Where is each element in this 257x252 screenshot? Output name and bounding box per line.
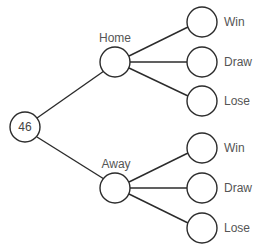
edge-away-lose <box>129 194 188 223</box>
root-node-label: 46 <box>18 120 31 134</box>
home-node <box>100 47 130 77</box>
edge-root-away <box>37 137 104 179</box>
away-win-label: Win <box>224 141 245 155</box>
away-node <box>100 173 130 203</box>
home-branch-label: Home <box>99 31 131 45</box>
away-win-node <box>187 133 217 163</box>
edge-home-lose <box>129 68 188 96</box>
home-lose-node <box>187 86 217 116</box>
away-branch-label: Away <box>101 157 130 171</box>
edge-away-win <box>129 153 188 182</box>
home-draw-label: Draw <box>224 55 252 69</box>
away-lose-label: Lose <box>224 221 250 235</box>
home-win-label: Win <box>224 15 245 29</box>
away-draw-node <box>187 173 217 203</box>
home-draw-node <box>187 47 217 77</box>
away-lose-node <box>187 213 217 243</box>
away-draw-label: Draw <box>224 181 252 195</box>
edge-root-home <box>37 71 104 118</box>
home-win-node <box>187 7 217 37</box>
home-lose-label: Lose <box>224 94 250 108</box>
edge-home-win <box>129 27 188 56</box>
